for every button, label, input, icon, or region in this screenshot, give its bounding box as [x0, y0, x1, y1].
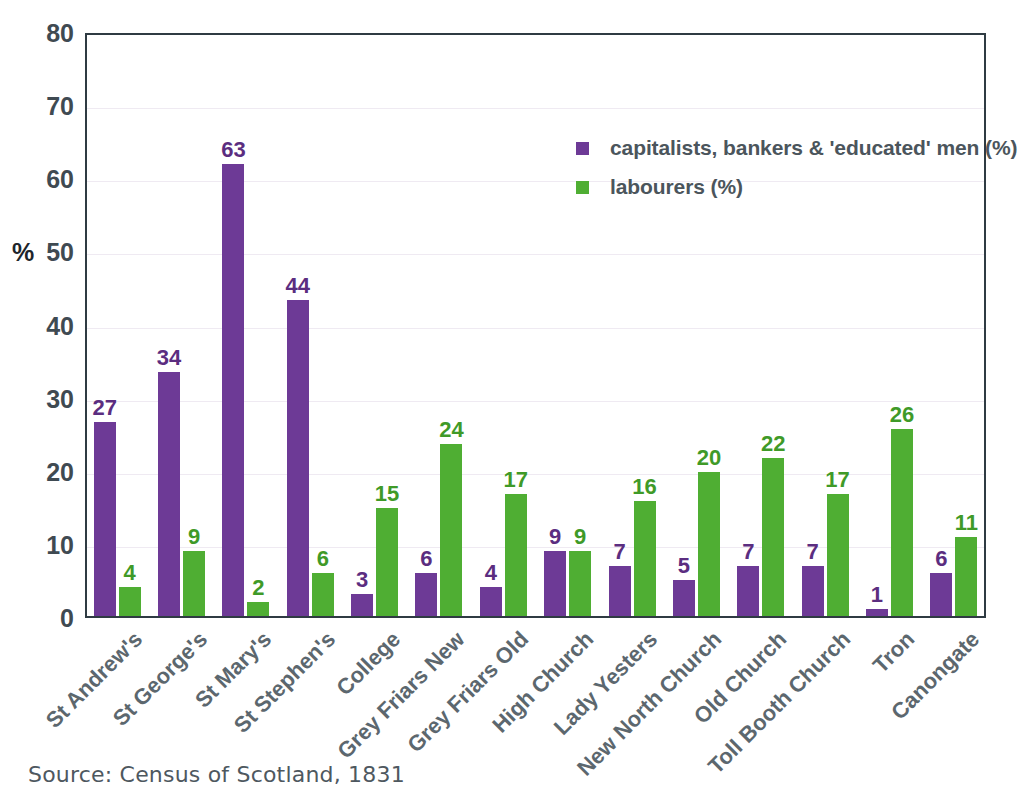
bar-labourers: [119, 587, 141, 616]
legend-label-capitalists: capitalists, bankers & 'educated' men (%…: [610, 136, 1017, 160]
bar-value-label: 34: [139, 347, 199, 369]
y-axis-tick-50: 50: [8, 240, 74, 265]
legend-swatch-purple-icon: [576, 142, 589, 155]
bar-chart: % 01020304050607080 27434963244631562441…: [0, 0, 1031, 805]
bar-value-label: 20: [679, 447, 739, 469]
source-note: Source: Census of Scotland, 1831: [28, 762, 405, 787]
y-axis-tick-20: 20: [8, 460, 74, 485]
y-axis-tick-0: 0: [8, 606, 74, 631]
bar-value-label: 15: [357, 483, 417, 505]
bar-value-label: 26: [872, 404, 932, 426]
bar-value-label: 17: [486, 469, 546, 491]
legend-swatch-green-icon: [576, 181, 589, 194]
y-axis-tick-40: 40: [8, 314, 74, 339]
y-axis-tick-60: 60: [8, 167, 74, 192]
plot-area: 2743496324463156244179971652072271712661…: [85, 33, 986, 618]
y-axis-tick-70: 70: [8, 94, 74, 119]
legend-item-capitalists: capitalists, bankers & 'educated' men (%…: [576, 135, 1017, 161]
bar-value-label: 27: [75, 397, 135, 419]
legend-label-labourers: labourers (%): [610, 175, 743, 199]
bar-capitalists: [94, 422, 116, 616]
y-axis-tick-30: 30: [8, 387, 74, 412]
bar-value-label: 24: [421, 419, 481, 441]
gridline: [87, 108, 984, 109]
y-axis-tick-10: 10: [8, 533, 74, 558]
bar-labourers: [955, 537, 977, 616]
bar-value-label: 44: [268, 275, 328, 297]
bar-value-label: 22: [743, 433, 803, 455]
bar-value-label: 17: [808, 469, 868, 491]
y-axis-tick-80: 80: [8, 21, 74, 46]
bar-value-label: 16: [615, 476, 675, 498]
legend-item-labourers: labourers (%): [576, 174, 1017, 200]
bar-value-label: 4: [100, 562, 160, 584]
bar-value-label: 63: [203, 139, 263, 161]
chart-legend: capitalists, bankers & 'educated' men (%…: [576, 135, 1017, 213]
